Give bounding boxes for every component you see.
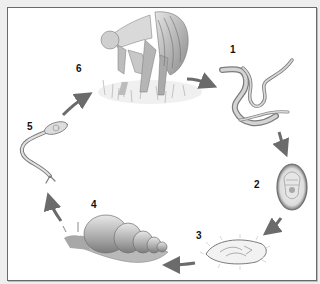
snail-illustration (63, 215, 168, 262)
arrow-4-to-5-icon (50, 201, 61, 221)
arrow-1-to-2-icon (279, 132, 284, 149)
worms-illustration (222, 60, 292, 123)
ciliated-larva-illustration (200, 234, 270, 270)
stage-label-6: 6 (76, 64, 82, 74)
stage-label-5: 5 (27, 122, 33, 132)
person-wading-illustration (98, 12, 202, 104)
arrow-3-to-4-icon (171, 263, 195, 265)
arrow-2-to-3-icon (270, 218, 281, 230)
stage-label-3: 3 (196, 231, 202, 241)
life-cycle-illustration (0, 0, 320, 284)
arrow-5-to-6-icon (63, 97, 85, 115)
arrow-6-to-1-icon (187, 79, 209, 84)
stage-label-1: 1 (230, 45, 236, 55)
stage-label-4: 4 (91, 200, 97, 210)
stage-label-2: 2 (254, 180, 260, 190)
egg-illustration (277, 164, 307, 210)
